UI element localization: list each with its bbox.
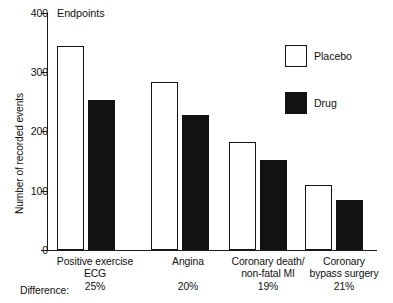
bar-chart-figure: Endpoints Number of recorded events 400 … xyxy=(0,0,393,303)
bar-placebo-3 xyxy=(305,185,332,250)
category-label-3-line-1: bypass surgery xyxy=(296,268,392,280)
bar-placebo-2 xyxy=(229,142,256,250)
legend-label-placebo: Placebo xyxy=(314,50,352,62)
bar-drug-2 xyxy=(260,160,287,250)
category-label-3: Coronary bypass surgery 21% xyxy=(296,256,392,293)
bar-drug-0 xyxy=(88,100,115,250)
bar-drug-1 xyxy=(182,115,209,250)
category-difference-3: 21% xyxy=(296,281,392,293)
bar-placebo-0 xyxy=(57,46,84,250)
category-label-3-line-0: Coronary xyxy=(296,256,392,268)
bar-drug-3 xyxy=(336,200,363,250)
bar-placebo-1 xyxy=(151,82,178,250)
legend-swatch-placebo-icon xyxy=(285,45,307,67)
legend-item-placebo: Placebo xyxy=(285,45,352,67)
legend-label-drug: Drug xyxy=(314,97,337,109)
legend-swatch-drug-icon xyxy=(285,92,307,114)
difference-prefix-label: Difference: xyxy=(20,285,69,297)
legend-item-drug: Drug xyxy=(285,92,337,114)
